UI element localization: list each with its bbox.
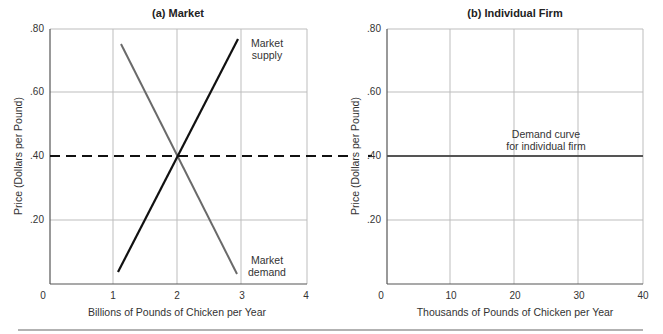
demand-label-line2: demand: [248, 266, 286, 278]
panel-b-individual-firm: (b) Individual Firm .80 .60 .40 .20 0 10…: [349, 7, 649, 318]
y-tick-60: .60: [367, 86, 381, 97]
panel-a-title: (a) Market: [152, 7, 204, 19]
x-tick-40: 40: [637, 290, 649, 301]
panel-a-x-axis-label: Billions of Pounds of Chicken per Year: [88, 306, 267, 318]
y-tick-20: .20: [367, 214, 381, 225]
y-tick-40: .40: [367, 150, 381, 161]
panel-b-x-axis-label: Thousands of Pounds of Chicken per Year: [417, 306, 614, 318]
y-tick-80: .80: [367, 23, 381, 34]
y-tick-60: .60: [30, 86, 44, 97]
market-demand-curve: [121, 44, 237, 274]
supply-label-line1: Market: [251, 37, 283, 49]
x-tick-3: 3: [239, 290, 245, 301]
panel-b-y-axis-label: Price (Dollars per Pound): [349, 97, 361, 215]
x-tick-0: 0: [378, 290, 384, 301]
y-tick-40: .40: [30, 150, 44, 161]
x-tick-10: 10: [445, 290, 457, 301]
x-tick-1: 1: [110, 290, 116, 301]
x-tick-2: 2: [174, 290, 180, 301]
x-tick-30: 30: [573, 290, 585, 301]
panel-a-y-axis-label: Price (Dollars per Pound): [12, 97, 24, 215]
firm-demand-label-line2: for individual firm: [506, 140, 586, 152]
x-tick-20: 20: [509, 290, 521, 301]
firm-demand-label-line1: Demand curve: [512, 128, 580, 140]
supply-label-line2: supply: [252, 49, 283, 61]
figure: (a) Market .80 .60 .40 .20 0 1 2 3 4 Bil…: [0, 0, 663, 334]
x-tick-4: 4: [303, 290, 309, 301]
panel-a-market: (a) Market .80 .60 .40 .20 0 1 2 3 4 Bil…: [12, 7, 309, 318]
y-tick-80: .80: [30, 23, 44, 34]
panel-b-title: (b) Individual Firm: [467, 7, 563, 19]
x-tick-0: 0: [40, 290, 46, 301]
y-tick-20: .20: [30, 214, 44, 225]
demand-label-line1: Market: [251, 254, 283, 266]
